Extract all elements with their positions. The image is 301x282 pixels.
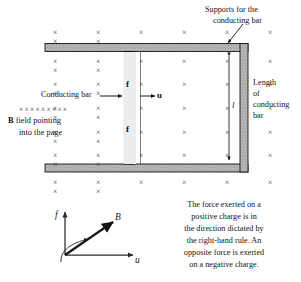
caption-line-2: the direction dictated by <box>150 224 298 234</box>
b-field-label-line1: B field pointing <box>8 116 61 126</box>
length-symbol-label: l <box>232 100 235 110</box>
conducting-bar-label: Conducting bar <box>41 90 92 100</box>
length-label-line1: Length <box>253 78 276 88</box>
vector-diagram <box>61 212 133 262</box>
force-label-bottom: f <box>126 124 129 135</box>
length-label-line2: of <box>253 89 260 99</box>
caption-line-5: on a negative charge. <box>150 260 298 270</box>
field-row-above-top-rail: × × × × × × × × <box>53 28 301 46</box>
caption-line-0: The force exerted on a <box>150 200 298 210</box>
vector-b-arrow <box>65 222 113 255</box>
supports-label-line2: conducting bar <box>213 16 262 26</box>
length-label-line4: bar <box>253 111 263 121</box>
supports-label-line1: Supports for the <box>205 5 258 15</box>
caption-line-3: the right-hand rule. An <box>150 236 298 246</box>
physics-figure-conducting-bar: × × × × × × × × × × × × × × × × × × × × … <box>0 0 301 282</box>
b-field-text: field pointing <box>14 116 61 125</box>
field-row-1: × × × × × × × × <box>53 57 301 75</box>
caption-line-1: positive charge is in <box>150 212 298 222</box>
bar-mask <box>124 52 136 164</box>
field-row-4: × × × × × × × × <box>53 128 301 146</box>
field-row-5: × × × × × × × × <box>53 151 301 169</box>
caption-line-4: opposite force is exerted <box>150 248 298 258</box>
field-row-below-bottom-rail: × × × × × × × × <box>53 178 301 196</box>
vector-b-label: B <box>115 212 121 222</box>
length-label-line3: conducting <box>253 100 289 110</box>
b-field-xrow-decoration: ××××××××× <box>19 105 68 114</box>
velocity-label: u <box>157 90 162 101</box>
force-label-top: f <box>126 79 129 90</box>
vector-u-label: u <box>135 255 140 265</box>
b-field-label-line2: into the page <box>19 128 62 138</box>
vector-f-label: f <box>55 210 58 220</box>
